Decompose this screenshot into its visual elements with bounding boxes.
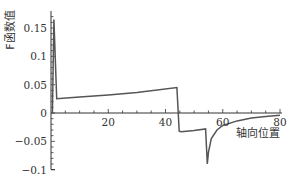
y-tick-label: 0.15 bbox=[24, 22, 47, 34]
axis-labels: 20406080−0.1−0.0500.050.10.15F函数值轴向位置 bbox=[4, 10, 287, 175]
axes bbox=[51, 11, 282, 170]
x-tick-label: 60 bbox=[216, 116, 229, 128]
y-tick-label: −0.1 bbox=[22, 164, 48, 176]
y-tick-label: −0.05 bbox=[15, 135, 47, 147]
x-tick-label: 20 bbox=[102, 116, 115, 128]
x-axis-title: 轴向位置 bbox=[236, 126, 280, 140]
y-tick-label: 0.05 bbox=[24, 79, 47, 91]
chart: 20406080−0.1−0.0500.050.10.15F函数值轴向位置 bbox=[0, 0, 291, 182]
y-tick-label: 0.1 bbox=[30, 50, 47, 62]
y-axis-title: F函数值 bbox=[4, 10, 17, 49]
x-tick-label: 40 bbox=[159, 116, 172, 128]
series-line bbox=[52, 20, 280, 165]
y-tick-label: 0 bbox=[40, 107, 47, 119]
